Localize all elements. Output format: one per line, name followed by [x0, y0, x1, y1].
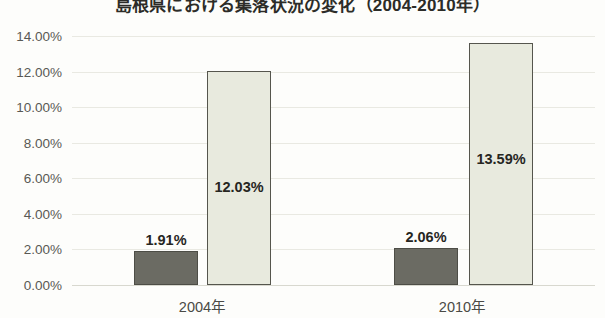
plot-area: 1.91%12.03%2.06%13.59% — [72, 36, 595, 285]
bar-2010-light: 13.59% — [469, 43, 533, 285]
bar-value-label: 12.03% — [214, 179, 263, 195]
bar-value-label: 13.59% — [476, 151, 525, 167]
x-axis-tick-label: 2010年 — [439, 295, 485, 316]
x-axis-tick-label: 2004年 — [179, 295, 225, 316]
gridline — [72, 285, 595, 286]
y-axis-tick-label: 2.00% — [0, 242, 62, 257]
y-axis-tick-label: 0.00% — [0, 278, 62, 293]
bar-value-label: 2.06% — [405, 229, 446, 245]
y-axis-tick-label: 12.00% — [0, 64, 62, 79]
bar-2004-dark: 1.91% — [134, 251, 198, 285]
bar-2004-light: 12.03% — [207, 71, 271, 285]
y-axis-tick-label: 4.00% — [0, 206, 62, 221]
chart-container: 島根県における集落状況の変化（2004-2010年） 1.91%12.03%2.… — [0, 0, 605, 318]
gridline — [72, 36, 595, 37]
bar-value-label: 1.91% — [145, 232, 186, 248]
chart-title: 島根県における集落状況の変化（2004-2010年） — [0, 0, 605, 16]
bar-2010-dark: 2.06% — [394, 248, 458, 285]
y-axis-tick-label: 6.00% — [0, 171, 62, 186]
y-axis-tick-label: 14.00% — [0, 29, 62, 44]
y-axis-tick-label: 8.00% — [0, 135, 62, 150]
y-axis-tick-label: 10.00% — [0, 100, 62, 115]
